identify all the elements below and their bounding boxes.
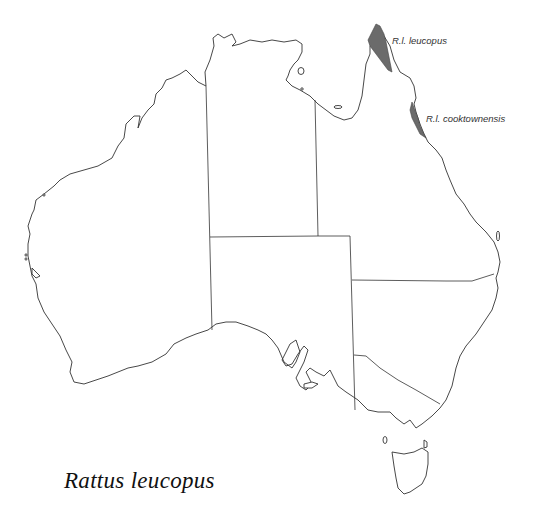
- king-island: [383, 437, 387, 444]
- shark-bay-island-1: [25, 254, 27, 256]
- australia-map: [0, 0, 550, 519]
- map-title: Rattus leucopus: [64, 468, 215, 494]
- mainland-coastline: [28, 34, 500, 428]
- island-nt: [301, 88, 303, 90]
- label-rl-cooktownensis: R.l. cooktownensis: [426, 113, 505, 124]
- label-rl-leucopus: R.l. leucopus: [392, 35, 447, 46]
- tasmania-coastline: [392, 448, 428, 494]
- mornington-island: [334, 106, 342, 109]
- groote-eylandt: [298, 68, 304, 75]
- fraser-island: [497, 231, 500, 241]
- flinders-island: [424, 440, 427, 448]
- shark-bay-island-2: [25, 258, 27, 260]
- island-wa: [43, 194, 45, 196]
